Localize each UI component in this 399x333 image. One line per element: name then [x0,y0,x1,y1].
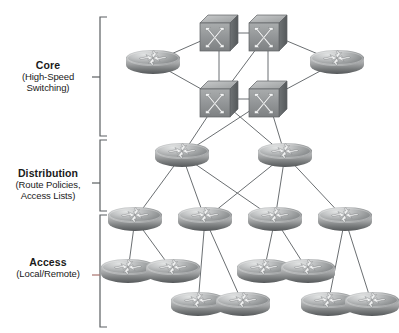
core-router-right[interactable] [310,50,364,80]
router-arrow-glyph [155,143,209,173]
core-switch-top-left[interactable] [199,14,239,52]
distribution-router-right[interactable] [258,143,312,173]
access-leaf-2[interactable] [146,259,200,289]
router-arrow-glyph [126,50,180,80]
tier-subtitle-line: (High-Speed [0,71,96,82]
router-arrow-glyph [281,259,335,289]
core-switch-bottom-left[interactable] [199,80,239,118]
core-router-left[interactable] [126,50,180,80]
router-arrow-glyph [345,292,399,322]
tier-label-distribution: Distribution (Route Policies, Access Lis… [0,168,96,201]
switch-body [248,14,288,52]
router-arrow-glyph [178,207,232,237]
access-leaf-8[interactable] [345,292,399,322]
tier-title: Core [0,60,96,71]
tier-subtitle-line: Access Lists) [0,190,96,201]
router-arrow-glyph [108,207,162,237]
switch-body [248,80,288,118]
router-arrow-glyph [310,50,364,80]
router-arrow-glyph [318,207,372,237]
access-router-2[interactable] [178,207,232,237]
router-arrow-glyph [216,292,270,322]
core-switch-bottom-right[interactable] [248,80,288,118]
tier-title: Access [0,257,96,268]
switch-body [199,80,239,118]
tier-subtitle-line: (Local/Remote) [0,268,96,279]
access-router-4[interactable] [318,207,372,237]
access-leaf-6[interactable] [281,259,335,289]
router-arrow-glyph [258,143,312,173]
tier-title: Distribution [0,168,96,179]
router-arrow-glyph [248,207,302,237]
tier-label-access: Access (Local/Remote) [0,257,96,279]
core-switch-top-right[interactable] [248,14,288,52]
tier-subtitle-line: (Route Policies, [0,179,96,190]
access-router-3[interactable] [248,207,302,237]
access-router-1[interactable] [108,207,162,237]
tier-label-core: Core (High-Speed Switching) [0,60,96,93]
access-leaf-4[interactable] [216,292,270,322]
router-arrow-glyph [146,259,200,289]
distribution-router-left[interactable] [155,143,209,173]
switch-body [199,14,239,52]
tier-subtitle-line: Switching) [0,82,96,93]
